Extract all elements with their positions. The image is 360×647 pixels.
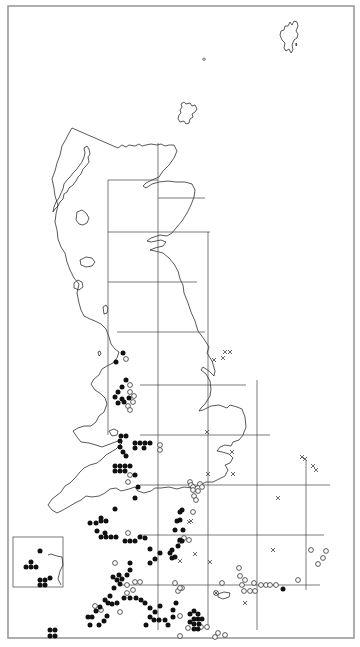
coastline-layer: [48, 21, 298, 599]
filled-circle-marker: [173, 528, 178, 533]
open-circle-marker: [128, 473, 133, 478]
filled-circle-marker: [118, 469, 123, 474]
filled-circle-marker: [116, 401, 121, 406]
filled-circle-marker: [148, 606, 153, 611]
filled-circle-marker: [174, 601, 179, 606]
filled-circle-marker: [170, 548, 175, 553]
open-circle-marker: [178, 634, 183, 639]
filled-circle-marker: [143, 536, 148, 541]
filled-circle-marker: [121, 351, 126, 356]
filled-circle-marker: [134, 596, 139, 601]
open-circle-marker: [173, 581, 178, 586]
filled-circle-marker: [94, 521, 99, 526]
filled-circle-marker: [197, 622, 202, 627]
filled-circle-marker: [43, 578, 48, 583]
filled-circle-marker: [144, 623, 149, 628]
open-circle-marker: [132, 394, 137, 399]
open-circle-marker: [113, 561, 118, 566]
filled-circle-marker: [38, 549, 43, 554]
filled-circle-marker: [148, 561, 153, 566]
filled-circle-marker: [128, 561, 133, 566]
filled-circle-marker: [106, 601, 111, 606]
filled-circle-marker: [111, 575, 116, 580]
filled-circle-marker: [143, 441, 148, 446]
filled-circle-marker: [148, 615, 153, 620]
filled-circle-marker: [24, 565, 29, 570]
filled-circle-marker: [95, 529, 100, 534]
cross-marker: [228, 350, 232, 354]
open-circle-marker: [309, 548, 314, 553]
open-circle-marker: [131, 400, 136, 405]
filled-circle-marker: [173, 555, 178, 560]
filled-circle-marker: [128, 568, 133, 573]
filled-circle-marker: [108, 594, 113, 599]
open-circle-marker: [205, 625, 210, 630]
filled-circle-marker: [138, 535, 143, 540]
filled-circle-marker: [118, 464, 123, 469]
open-circle-marker: [243, 578, 248, 583]
coastline-mull: [80, 257, 95, 267]
filled-circle-marker: [104, 519, 109, 524]
cross-marker: [205, 430, 209, 434]
filled-circle-marker: [29, 560, 34, 565]
cross-marker: [243, 601, 247, 605]
filled-circle-marker: [158, 604, 163, 609]
filled-circle-marker: [104, 535, 109, 540]
filled-circle-marker: [34, 565, 39, 570]
filled-circle-marker: [112, 586, 117, 591]
cross-marker: [276, 496, 280, 500]
open-circle-marker: [242, 589, 247, 594]
filled-circle-marker: [122, 596, 127, 601]
filled-circle-marker: [48, 628, 53, 633]
filled-circle-marker: [88, 623, 93, 628]
filled-circle-marker: [143, 601, 148, 606]
open-circle-marker: [321, 556, 326, 561]
filled-circle-marker: [196, 627, 201, 632]
filled-circle-marker: [114, 360, 119, 365]
filled-circle-marker: [97, 623, 102, 628]
open-circle-marker: [274, 583, 279, 588]
filled-circle-marker: [99, 535, 104, 540]
open-circle-marker: [240, 583, 245, 588]
open-circle-marker: [126, 480, 131, 485]
cross-marker: [271, 548, 275, 552]
open-circle-marker: [138, 580, 143, 585]
open-circle-marker: [93, 604, 98, 609]
filled-circle-marker: [181, 528, 186, 533]
open-circle-marker: [118, 610, 123, 615]
open-circle-marker: [158, 443, 163, 448]
open-circle-marker: [200, 485, 205, 490]
filled-circle-records: [24, 351, 286, 639]
open-circle-marker: [220, 581, 225, 586]
cross-marker: [314, 468, 318, 472]
filled-circle-marker: [127, 396, 132, 401]
open-circle-marker: [131, 588, 136, 593]
open-circle-marker: [248, 589, 253, 594]
open-circle-marker: [125, 583, 130, 588]
filled-circle-marker: [99, 516, 104, 521]
filled-circle-marker: [158, 551, 163, 556]
filled-circle-marker: [113, 395, 118, 400]
open-circle-marker: [126, 531, 131, 536]
open-circle-marker: [187, 538, 192, 543]
cross-marker: [193, 552, 197, 556]
open-circle-marker: [216, 631, 221, 636]
coastline-skye: [76, 210, 89, 225]
cross-marker: [178, 559, 182, 563]
filled-circle-marker: [38, 578, 43, 583]
open-circle-marker: [194, 498, 199, 503]
filled-circle-marker: [43, 583, 48, 588]
filled-circle-marker: [133, 539, 138, 544]
filled-circle-marker: [113, 469, 118, 474]
filled-circle-marker: [29, 565, 34, 570]
filled-circle-marker: [86, 615, 91, 620]
open-circle-marker: [128, 390, 133, 395]
filled-circle-marker: [48, 634, 53, 639]
open-circle-marker: [237, 566, 242, 571]
open-circle-marker: [296, 578, 301, 583]
open-circle-marker: [316, 562, 321, 567]
filled-circle-marker: [120, 385, 125, 390]
filled-circle-marker: [94, 609, 99, 614]
filled-circle-marker: [124, 434, 129, 439]
filled-circle-marker: [133, 473, 138, 478]
